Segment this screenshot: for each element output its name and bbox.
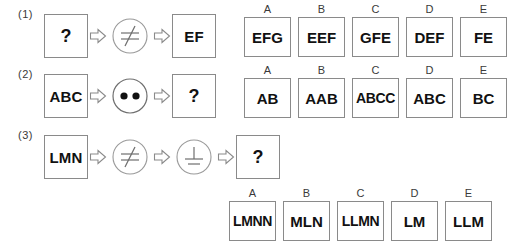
option-c-box[interactable]: GFE [352,17,399,57]
option-b[interactable]: B EEF [297,3,346,57]
option-b-letter: B [318,3,325,15]
option-e[interactable]: E BC [459,64,508,118]
option-a[interactable]: A AB [243,64,292,118]
row-3-options: A LMNN B MLN C LLMN D LM E LLM [228,187,493,241]
option-b[interactable]: B MLN [282,187,331,241]
right-block-arrow-icon [152,135,172,179]
puzzle-row-1: (1) ? EF [0,0,475,62]
right-block-arrow-icon [88,74,108,118]
row-2-term-question: ? [172,74,216,118]
option-e-letter: E [480,3,487,15]
right-block-arrow-icon [152,74,172,118]
option-b-letter: B [303,187,310,199]
option-e-letter: E [480,64,487,76]
right-block-arrow-icon [88,135,108,179]
option-e[interactable]: E LLM [444,187,493,241]
option-b[interactable]: B AAB [297,64,346,118]
option-e-letter: E [465,187,472,199]
option-c[interactable]: C LLMN [336,187,385,241]
option-a-letter: A [264,64,271,76]
row-3-term-question: ? [236,135,280,179]
option-d-box[interactable]: LM [391,201,438,241]
option-a[interactable]: A LMNN [228,187,277,241]
option-a[interactable]: A EFG [243,3,292,57]
option-c[interactable]: C ABCC [351,64,400,118]
option-d-box[interactable]: DEF [406,17,453,57]
option-c-box[interactable]: LLMN [337,201,384,241]
row-3-term-input: LMN [44,135,88,179]
option-d-letter: D [411,187,419,199]
option-a-letter: A [249,187,256,199]
puzzle-row-2: (2) ABC ? [0,62,475,125]
option-b-box[interactable]: MLN [283,201,330,241]
option-d[interactable]: D DEF [405,3,454,57]
puzzle-row-3: (3) LMN [0,125,475,244]
right-block-arrow-icon [88,14,108,58]
option-d-box[interactable]: ABC [406,78,453,118]
option-a-box[interactable]: AB [244,78,291,118]
option-e-box[interactable]: BC [460,78,507,118]
two-dots-circle-icon [108,74,152,118]
option-d-letter: D [426,3,434,15]
perpendicular-ground-circle-icon [172,135,216,179]
row-1-label: (1) [18,8,33,20]
row-1-options: A EFG B EEF C GFE D DEF E FE [243,3,508,57]
option-e[interactable]: E FE [459,3,508,57]
row-3-sequence: LMN [44,135,280,179]
option-c-letter: C [372,64,380,76]
row-2-options: A AB B AAB C ABCC D ABC E BC [243,64,508,118]
not-equal-circle-icon [108,14,152,58]
right-block-arrow-icon [216,135,236,179]
option-a-box[interactable]: EFG [244,17,291,57]
option-c[interactable]: C GFE [351,3,400,57]
option-d-letter: D [426,64,434,76]
option-b-letter: B [318,64,325,76]
option-a-letter: A [264,3,271,15]
option-b-box[interactable]: EEF [298,17,345,57]
row-2-term-input: ABC [44,74,88,118]
option-a-box[interactable]: LMNN [229,201,276,241]
row-1-term-result: EF [172,14,216,58]
right-block-arrow-icon [152,14,172,58]
row-1-term-question: ? [44,14,88,58]
option-e-box[interactable]: FE [460,17,507,57]
option-c-letter: C [357,187,365,199]
option-b-box[interactable]: AAB [298,78,345,118]
not-equal-circle-icon [108,135,152,179]
option-d[interactable]: D LM [390,187,439,241]
option-c-box[interactable]: ABCC [352,78,399,118]
row-3-label: (3) [18,129,33,141]
option-c-letter: C [372,3,380,15]
row-2-label: (2) [18,68,33,80]
row-2-sequence: ABC ? [44,74,216,118]
option-d[interactable]: D ABC [405,64,454,118]
row-1-sequence: ? EF [44,14,216,58]
option-e-box[interactable]: LLM [445,201,492,241]
